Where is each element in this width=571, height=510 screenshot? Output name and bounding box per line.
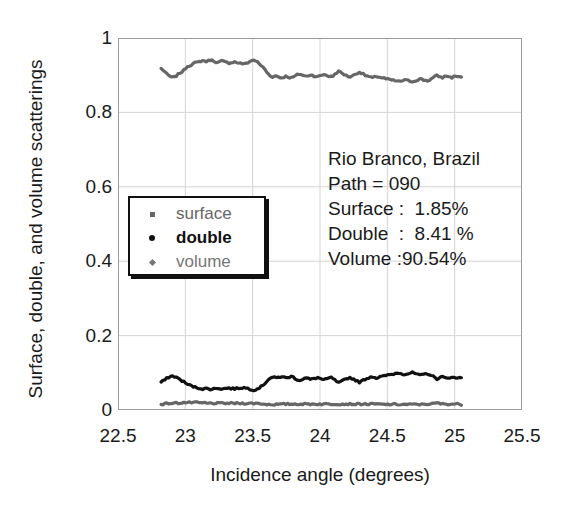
legend-label-surface: surface [176,204,232,224]
diamond-icon [148,258,155,265]
legend-item-volume[interactable]: volume [130,250,264,274]
x-tick-23.5: 23.5 [218,425,288,447]
y-tick-0.6: 0.6 [72,176,112,198]
legend-item-surface[interactable]: surface [130,202,264,226]
legend-marker-diamond-icon [144,260,160,265]
annotation-line-5: Volume :90.54% [328,246,480,271]
x-tick-25: 25 [420,425,490,447]
annotation-line-4: Double : 8.41 % [328,221,480,246]
annotation-line-3: Surface : 1.85% [328,196,480,221]
x-tick-24.5: 24.5 [352,425,422,447]
y-tick-0: 0 [72,399,112,421]
x-tick-24: 24 [285,425,355,447]
x-tick-22.5: 22.5 [83,425,153,447]
chart-figure: Surface, double, and volume scatterings … [0,0,571,510]
x-tick-23: 23 [150,425,220,447]
x-axis-label: Incidence angle (degrees) [118,464,522,486]
annotation-line-1: Rio Branco, Brazil [328,146,480,171]
legend-marker-square-icon [144,212,160,217]
annotation-text-block: Rio Branco, BrazilPath = 090Surface : 1.… [328,146,480,271]
series-line-volume [161,60,461,82]
annotation-line-2: Path = 090 [328,171,480,196]
x-tick-25.5: 25.5 [487,425,557,447]
legend-label-double: double [176,228,232,248]
y-axis-label: Surface, double, and volume scatterings [25,39,47,419]
series-line-surface [161,402,461,405]
y-tick-0.2: 0.2 [72,325,112,347]
legend-item-double[interactable]: double [130,226,264,250]
y-tick-1: 1 [72,27,112,49]
legend-marker-dot-icon [144,235,160,241]
square-icon [150,212,155,217]
y-tick-0.4: 0.4 [72,250,112,272]
legend-label-volume: volume [176,252,231,272]
x-axis-tick-labels: 22.52323.52424.52525.5 [0,425,571,453]
series-line-double [161,372,461,391]
legend[interactable]: surfacedoublevolume [128,196,266,276]
y-tick-0.8: 0.8 [72,101,112,123]
dot-icon [149,235,155,241]
